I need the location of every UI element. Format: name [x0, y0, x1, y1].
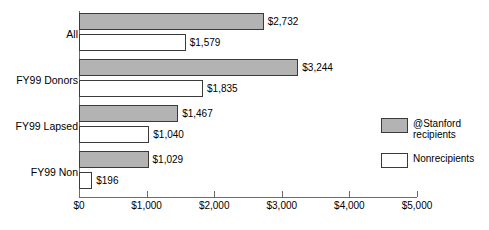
x-tick: [282, 191, 283, 197]
bar-chart: $0$1,000$2,000$3,000$4,000$5,000 AllFY99…: [0, 0, 489, 230]
category-label: FY99 Lapsed: [16, 120, 78, 132]
x-tick: [214, 191, 215, 197]
x-tick-label: $0: [73, 200, 84, 211]
x-axis-line: [79, 197, 417, 198]
bar-recipients: [79, 105, 178, 122]
legend-swatch-recipients-icon: [381, 118, 408, 133]
bar-value-label: $1,467: [182, 105, 213, 122]
x-tick: [349, 191, 350, 197]
legend-label-nonrecipients: Nonrecipients: [413, 153, 474, 164]
x-tick-label: $2,000: [199, 200, 230, 211]
plot-area: $0$1,000$2,000$3,000$4,000$5,000 AllFY99…: [0, 0, 489, 230]
bar-nonrecipients: [79, 80, 203, 97]
legend-swatch-nonrecipients-icon: [381, 153, 408, 168]
bar-nonrecipients: [79, 172, 92, 189]
bar-value-label: $2,732: [268, 13, 299, 30]
x-tick-label: $3,000: [267, 200, 298, 211]
legend-label-recipients: @Stanford recipients: [413, 118, 461, 140]
x-tick: [147, 191, 148, 197]
bar-value-label: $1,040: [153, 126, 184, 143]
bar-value-label: $1,029: [153, 151, 184, 168]
category-label: All: [66, 28, 78, 40]
x-tick-label: $4,000: [334, 200, 365, 211]
bar-value-label: $3,244: [302, 59, 333, 76]
category-label: FY99 Donors: [16, 74, 78, 86]
x-tick-label: $1,000: [131, 200, 162, 211]
x-tick: [417, 191, 418, 197]
bar-recipients: [79, 13, 264, 30]
bar-nonrecipients: [79, 126, 149, 143]
bar-value-label: $1,835: [207, 80, 238, 97]
bar-value-label: $196: [96, 172, 118, 189]
x-tick-label: $5,000: [402, 200, 433, 211]
bar-nonrecipients: [79, 34, 186, 51]
x-tick: [79, 191, 80, 197]
bar-recipients: [79, 151, 149, 168]
legend-item-nonrecipients: Nonrecipients: [381, 153, 474, 168]
category-label: FY99 Non: [31, 166, 78, 178]
bar-value-label: $1,579: [190, 34, 221, 51]
legend-item-recipients: @Stanford recipients: [381, 118, 461, 140]
bar-recipients: [79, 59, 298, 76]
